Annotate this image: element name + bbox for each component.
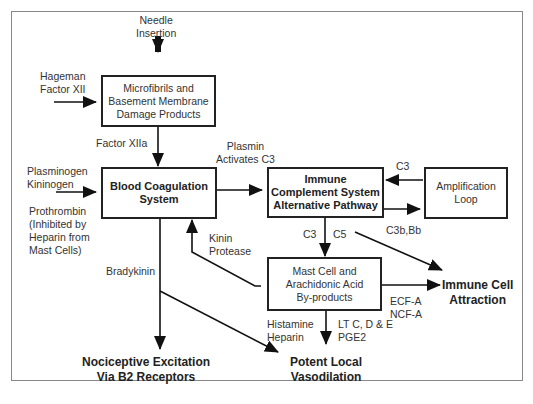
bradykinin-label: Bradykinin	[106, 265, 155, 278]
factor-xiia-label: Factor XIIa	[96, 137, 147, 150]
c3-down-label: C3	[303, 228, 316, 241]
histamine-heparin-label: Histamine Heparin	[267, 318, 314, 344]
c3b-bb-label: C3b,Bb	[386, 224, 421, 237]
plasminogen-kininogen-label: Plasminogen Kininogen	[27, 165, 88, 191]
c3-feedback-label: C3	[396, 160, 409, 173]
immune-complement-box: Immune Complement System Alternative Pat…	[267, 167, 384, 218]
amplification-loop-box: Amplification Loop	[424, 167, 508, 219]
prothrombin-label: Prothrombin (Inhibited by Heparin from M…	[29, 205, 90, 257]
microfibrils-box: Microfibrils and Basement Membrane Damag…	[101, 75, 216, 127]
c5-label: C5	[333, 228, 346, 241]
kinin-protease-label: Kinin Protease	[209, 232, 251, 258]
needle-insertion-label: Needle Insertion	[136, 14, 176, 40]
potent-vasodilation-output: Potent Local Vasodilation	[290, 355, 362, 385]
immune-cell-attraction-output: Immune Cell Attraction	[442, 278, 513, 308]
mast-cell-box: Mast Cell and Arachidonic Acid By-produc…	[267, 257, 382, 311]
lt-pge2-label: LT C, D & E PGE2	[338, 318, 393, 344]
nociceptive-excitation-output: Nociceptive Excitation Via B2 Receptors	[82, 355, 210, 385]
hageman-factor-label: Hageman Factor XII	[40, 70, 86, 96]
blood-coagulation-box: Blood Coagulation System	[101, 167, 217, 219]
plasmin-activates-c3-label: Plasmin Activates C3	[216, 140, 275, 166]
ecf-ncf-label: ECF-A NCF-A	[390, 295, 422, 321]
